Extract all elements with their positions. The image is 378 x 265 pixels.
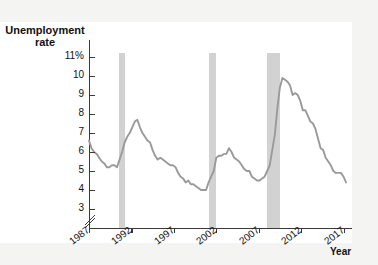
y-axis-tick (89, 171, 95, 172)
y-axis-tick (89, 190, 95, 191)
y-axis-tick (89, 95, 95, 96)
y-axis-tick (89, 133, 95, 134)
unemployment-line (89, 78, 346, 190)
y-axis-tick (89, 209, 95, 210)
y-axis-tick (89, 114, 95, 115)
y-axis-tick (89, 152, 95, 153)
chart-plot-area (0, 0, 378, 265)
y-axis-tick (89, 76, 95, 77)
chart-panel: Unemployment rate 11%109876543 Year 1987… (0, 0, 378, 265)
y-axis-tick (89, 57, 95, 58)
